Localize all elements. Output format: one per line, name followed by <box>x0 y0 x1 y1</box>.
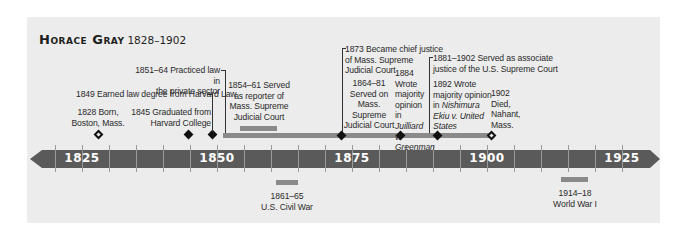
axis-tick <box>514 145 515 172</box>
axis-tick <box>568 145 569 172</box>
axis-tick <box>190 145 191 172</box>
axis-tick <box>325 145 326 172</box>
event-private-practice: 1851–64 Practiced law in the private sec… <box>130 65 220 97</box>
reporter-span-bar <box>240 126 277 131</box>
page-title: Horace Gray1828–1902 <box>39 29 186 48</box>
harvard-law-leader <box>212 94 213 132</box>
event-associate-justice: 1881–1902 Served as associate justice of… <box>433 53 583 74</box>
axis-tick <box>271 145 272 172</box>
event-harvard-college: 1845 Graduated from Harvard College <box>125 107 211 128</box>
axis-tick <box>298 145 299 172</box>
axis-tick <box>595 145 596 172</box>
axis-tick <box>55 145 56 172</box>
event-nishimura: 1892 Wrote majority opinion in Nishimura… <box>433 79 495 132</box>
context-civil-war: 1861–65 U.S. Civil War <box>252 191 322 212</box>
event-mass-sjc: 1864–81 Served on Mass. Supreme Judicial… <box>343 78 395 131</box>
axis-label-1850: 1850 <box>199 151 234 165</box>
axis-tick <box>244 145 245 172</box>
event-born: 1828 Born, Boston, Mass. <box>63 107 133 128</box>
axis-tick <box>109 145 110 172</box>
axis-tick <box>163 145 164 172</box>
private-practice-leader <box>225 70 226 133</box>
career-span-bar <box>223 133 493 138</box>
event-reporter: 1854–61 Served as reporter of Mass. Supr… <box>228 80 290 122</box>
event-died: 1902 Died, Nahant, Mass. <box>491 88 527 130</box>
axis-tick <box>379 145 380 172</box>
event-juilliard: 1884 Wrote majority opinion in Juilliard… <box>395 68 429 153</box>
private-practice-leader-tick <box>221 70 226 71</box>
axis-label-1825: 1825 <box>64 151 99 165</box>
axis-label-1900: 1900 <box>469 151 504 165</box>
title-years: 1828–1902 <box>127 34 186 46</box>
wwi-bar <box>561 177 588 182</box>
axis-tick <box>541 145 542 172</box>
axis-tick <box>460 145 461 172</box>
title-name: Horace Gray <box>39 32 124 47</box>
axis-label-1875: 1875 <box>334 151 369 165</box>
axis-tick <box>136 145 137 172</box>
context-wwi: 1914–18 World War I <box>540 188 610 209</box>
axis-label-1925: 1925 <box>604 151 639 165</box>
civil-war-bar <box>276 180 298 185</box>
